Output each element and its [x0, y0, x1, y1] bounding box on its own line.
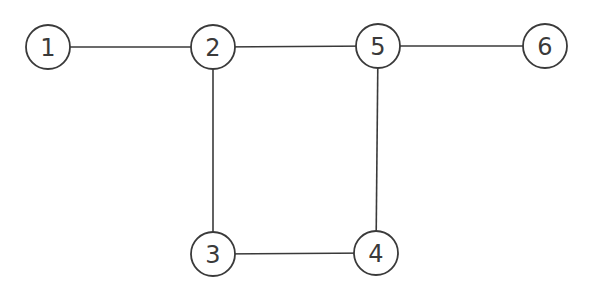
- node-label: 5: [370, 33, 385, 61]
- node-3: 3: [191, 232, 235, 276]
- node-1: 1: [26, 25, 70, 69]
- node-label: 1: [40, 34, 55, 62]
- node-6: 6: [523, 24, 567, 68]
- node-2: 2: [191, 25, 235, 69]
- edge-3-4: [213, 253, 376, 254]
- edges-group: [48, 46, 545, 254]
- edge-2-5: [213, 46, 378, 47]
- node-label: 6: [537, 33, 552, 61]
- graph-diagram: 125634: [0, 0, 594, 289]
- node-label: 4: [368, 240, 383, 268]
- edge-5-4: [376, 46, 378, 253]
- node-4: 4: [354, 231, 398, 275]
- node-label: 3: [205, 241, 220, 269]
- nodes-group: 125634: [26, 24, 567, 276]
- node-5: 5: [356, 24, 400, 68]
- node-label: 2: [205, 34, 220, 62]
